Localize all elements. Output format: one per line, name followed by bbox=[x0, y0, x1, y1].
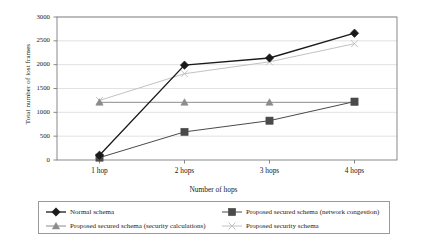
data-point-diamond bbox=[350, 29, 358, 37]
legend-label: Proposed secured schema (security calcul… bbox=[70, 222, 206, 230]
legend-marker-x-icon bbox=[221, 220, 243, 232]
chart-legend: Normal schemaProposed secured schema (ne… bbox=[38, 201, 390, 234]
legend-marker-square-icon bbox=[221, 206, 243, 218]
data-point-square bbox=[351, 98, 358, 105]
chart-figure: Total number of lost frames 050010001500… bbox=[0, 0, 427, 242]
data-point-square bbox=[181, 128, 188, 135]
legend-label: Proposed secured schema (network congest… bbox=[246, 208, 379, 216]
legend-label: Proposed security schema bbox=[246, 222, 319, 230]
legend-item[interactable]: Proposed secured schema (network congest… bbox=[221, 205, 379, 219]
legend-label: Normal schema bbox=[70, 208, 114, 216]
legend-item[interactable]: Proposed secured schema (security calcul… bbox=[45, 219, 206, 233]
series-1 bbox=[96, 98, 358, 161]
legend-marker-triangle-icon bbox=[45, 220, 67, 232]
data-point-diamond bbox=[52, 208, 60, 216]
series-line bbox=[100, 44, 355, 101]
series-0 bbox=[95, 29, 358, 159]
series-line bbox=[100, 102, 355, 158]
data-point-square bbox=[266, 117, 273, 124]
x-axis-title: Number of hops bbox=[0, 185, 427, 194]
series-3 bbox=[96, 40, 358, 104]
legend-item[interactable]: Proposed security schema bbox=[221, 219, 319, 233]
legend-marker-diamond-icon bbox=[45, 206, 67, 218]
series-2 bbox=[96, 99, 358, 105]
data-point-square bbox=[228, 208, 235, 215]
legend-item[interactable]: Normal schema bbox=[45, 205, 114, 219]
